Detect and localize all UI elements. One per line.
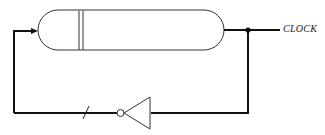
- inverter-triangle-icon: [124, 97, 150, 129]
- inverter-bubble-icon: [117, 110, 124, 117]
- delay-line-capsule: [38, 10, 224, 50]
- clock-circuit-diagram: [0, 0, 325, 135]
- output-wire: [224, 27, 280, 32]
- clock-label: CLOCK: [283, 23, 317, 34]
- input-arrow-icon: [31, 28, 38, 34]
- input-wire: [14, 28, 38, 113]
- feedback-wire: [14, 30, 248, 119]
- inverter-gate: [117, 97, 150, 129]
